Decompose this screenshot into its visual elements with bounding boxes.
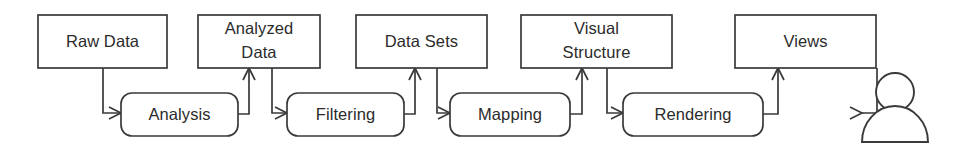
node-views[interactable]: Views	[735, 15, 876, 68]
edge-analyzed-data-to-filtering	[272, 68, 287, 119]
edge-line	[607, 68, 622, 113]
node-filtering-label: Filtering	[316, 105, 376, 123]
data-nodes-layer: Raw Data Analyzed Data Data Sets Visual …	[38, 15, 876, 68]
node-data-sets[interactable]: Data Sets	[356, 15, 487, 68]
user-actor	[862, 73, 928, 142]
edge-mapping-to-visual-structure	[570, 68, 588, 114]
edge-line	[404, 70, 415, 114]
edge-rendering-to-views	[763, 68, 784, 114]
node-analysis[interactable]: Analysis	[121, 93, 238, 136]
node-analyzed-data-label-line2: Data	[241, 43, 277, 61]
node-raw-data-label: Raw Data	[66, 32, 140, 50]
edge-line	[570, 70, 582, 114]
edge-line	[238, 70, 249, 114]
edge-line	[861, 68, 877, 113]
node-rendering[interactable]: Rendering	[623, 93, 763, 136]
node-mapping-label: Mapping	[478, 105, 542, 123]
node-analysis-label: Analysis	[148, 105, 210, 123]
node-filtering[interactable]: Filtering	[287, 93, 404, 136]
diagram-canvas: Raw Data Analyzed Data Data Sets Visual …	[0, 0, 972, 155]
edge-line	[437, 68, 449, 113]
edge-data-sets-to-mapping	[437, 68, 450, 119]
node-visual-structure-label-line2: Structure	[563, 43, 631, 61]
node-data-sets-label: Data Sets	[385, 32, 458, 50]
node-raw-data[interactable]: Raw Data	[38, 15, 167, 68]
node-visual-structure-label-line1: Visual	[574, 19, 619, 37]
edge-views-to-user	[850, 68, 877, 119]
edge-line	[272, 68, 286, 113]
node-mapping[interactable]: Mapping	[450, 93, 570, 136]
node-analyzed-data[interactable]: Analyzed Data	[198, 15, 320, 68]
node-views-label: Views	[783, 32, 827, 50]
edge-filtering-to-data-sets	[404, 68, 421, 114]
edge-analysis-to-analyzed-data	[238, 68, 255, 114]
process-nodes-layer: Analysis Filtering Mapping Rendering	[121, 93, 763, 136]
node-visual-structure[interactable]: Visual Structure	[521, 15, 672, 68]
node-rendering-label: Rendering	[654, 105, 731, 123]
edge-raw-data-to-analysis	[103, 68, 121, 119]
arrowhead-icon	[850, 107, 862, 119]
person-body-icon	[862, 106, 928, 142]
pipeline-diagram: Raw Data Analyzed Data Data Sets Visual …	[0, 0, 972, 155]
node-analyzed-data-label-line1: Analyzed	[225, 19, 294, 37]
edge-line	[763, 70, 778, 114]
edge-visual-structure-to-rendering	[607, 68, 623, 119]
edge-line	[103, 68, 120, 113]
